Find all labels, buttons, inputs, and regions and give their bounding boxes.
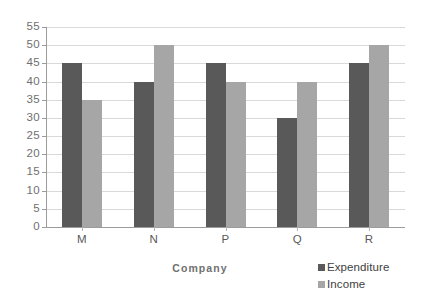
y-tick-label: 20 xyxy=(6,148,40,159)
x-tick-label-q: Q xyxy=(277,233,317,246)
bar-r-income[interactable] xyxy=(369,45,389,227)
y-tick-label: 40 xyxy=(6,76,40,87)
bar-p-expenditure[interactable] xyxy=(206,63,226,227)
bar-p-income[interactable] xyxy=(226,82,246,227)
y-tick-label: 15 xyxy=(6,166,40,177)
bar-m-income[interactable] xyxy=(82,100,102,227)
y-tick-mark xyxy=(42,154,46,155)
y-tick-mark xyxy=(42,209,46,210)
bar-n-expenditure[interactable] xyxy=(134,82,154,227)
y-tick-mark xyxy=(42,136,46,137)
x-tick-mark xyxy=(369,227,370,231)
y-tick-mark xyxy=(42,27,46,28)
plot-area xyxy=(46,27,405,227)
legend-label-expenditure: Expenditure xyxy=(327,261,389,273)
legend-label-income: Income xyxy=(327,278,365,290)
y-tick-label: 55 xyxy=(6,21,40,32)
x-tick-mark xyxy=(154,227,155,231)
x-tick-label-r: R xyxy=(349,233,389,246)
y-tick-label: 10 xyxy=(6,185,40,196)
legend-item-income[interactable]: Income xyxy=(318,278,389,290)
legend-swatch-icon-expenditure xyxy=(318,264,325,271)
gridline xyxy=(46,45,405,46)
y-tick-label: 25 xyxy=(6,130,40,141)
y-axis-line xyxy=(46,27,47,227)
legend-item-expenditure[interactable]: Expenditure xyxy=(318,261,389,273)
chart-legend: Expenditure Income xyxy=(318,261,389,295)
y-tick-label: 30 xyxy=(6,112,40,123)
bar-n-income[interactable] xyxy=(154,45,174,227)
y-tick-label: 50 xyxy=(6,39,40,50)
x-tick-mark xyxy=(297,227,298,231)
y-tick-mark xyxy=(42,227,46,228)
x-tick-mark xyxy=(226,227,227,231)
y-tick-mark xyxy=(42,118,46,119)
y-tick-mark xyxy=(42,191,46,192)
bar-chart: 0510152025303540455055 MNPQR Company Exp… xyxy=(0,0,424,307)
y-tick-label: 45 xyxy=(6,57,40,68)
y-tick-label: 35 xyxy=(6,94,40,105)
bar-r-expenditure[interactable] xyxy=(349,63,369,227)
bar-q-income[interactable] xyxy=(297,82,317,227)
y-tick-mark xyxy=(42,63,46,64)
y-tick-label: 0 xyxy=(6,221,40,232)
legend-swatch-icon-income xyxy=(318,281,325,288)
x-tick-mark xyxy=(82,227,83,231)
y-tick-mark xyxy=(42,172,46,173)
y-tick-mark xyxy=(42,45,46,46)
x-tick-label-p: P xyxy=(206,233,246,246)
gridline xyxy=(46,27,405,28)
x-axis-title: Company xyxy=(120,262,280,274)
y-tick-mark xyxy=(42,82,46,83)
x-tick-label-m: M xyxy=(62,233,102,246)
bar-q-expenditure[interactable] xyxy=(277,118,297,227)
y-tick-mark xyxy=(42,100,46,101)
y-tick-label: 5 xyxy=(6,203,40,214)
x-tick-label-n: N xyxy=(134,233,174,246)
bar-m-expenditure[interactable] xyxy=(62,63,82,227)
